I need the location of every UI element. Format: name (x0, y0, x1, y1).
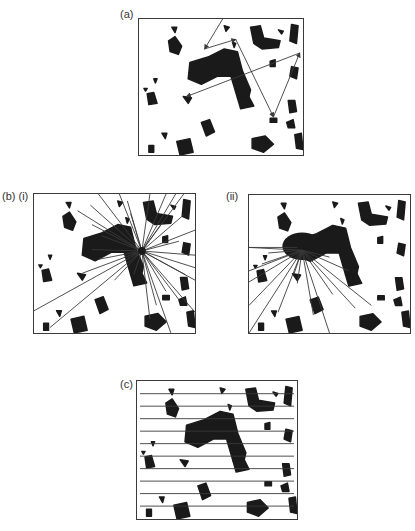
particle-cluster (182, 243, 190, 256)
panel-a-canvas (139, 19, 303, 155)
particle-cluster (272, 311, 277, 317)
particle-cluster (378, 296, 384, 300)
particle-cluster (283, 464, 291, 476)
particle-cluster (201, 120, 214, 136)
particle-cluster (180, 277, 188, 290)
particle-cluster (290, 67, 298, 79)
particle-cluster (147, 92, 157, 104)
particle-cluster (77, 273, 85, 280)
panel-b-ii-radial-cluster (248, 194, 411, 334)
particle-cluster (358, 202, 387, 225)
particle-cluster (333, 202, 338, 208)
particle-cluster (224, 26, 229, 31)
particle-cluster (154, 79, 157, 83)
particle-cluster (118, 201, 123, 207)
particle-cluster (287, 120, 295, 128)
panel-b-i-label: (b) (i) (2, 190, 28, 202)
particle-cluster (281, 203, 286, 209)
particle-cluster (233, 460, 249, 472)
particle-cluster (265, 422, 270, 429)
particle-cluster (172, 27, 177, 32)
particle-cluster (288, 101, 296, 113)
particle-cluster (394, 297, 402, 305)
particle-cluster (180, 460, 188, 467)
particle-cluster (346, 274, 362, 286)
particle-cluster (198, 483, 211, 500)
particle-cluster (284, 387, 292, 406)
origin-point (138, 247, 146, 255)
particle-cluster (145, 456, 155, 468)
particle-cluster (292, 274, 300, 281)
particle-cluster (402, 311, 410, 328)
panel-b-ii-canvas (249, 195, 410, 333)
panel-a-label: (a) (120, 8, 133, 20)
particle-cluster (162, 133, 167, 138)
particle-cluster (246, 388, 275, 411)
particle-cluster (228, 404, 231, 410)
particle-cluster (278, 213, 291, 231)
panel-b-i-canvas (34, 194, 195, 333)
particle-cluster (378, 236, 383, 243)
particle-cluster (182, 200, 190, 220)
particle-cluster (177, 139, 193, 155)
particle-cluster (232, 42, 235, 47)
particle-cluster (66, 202, 71, 208)
particle-cluster (395, 278, 403, 290)
radial-line (142, 251, 179, 300)
particle-cluster (220, 388, 225, 394)
particle-cluster (142, 451, 145, 454)
particle-cluster (281, 483, 289, 491)
radial-line (249, 250, 302, 305)
particle-cluster (44, 323, 49, 330)
particle-cluster (163, 295, 169, 299)
particle-cluster (126, 218, 129, 224)
panel-c-line-transects (136, 380, 298, 520)
particle-cluster (95, 297, 108, 314)
particle-cluster (286, 316, 302, 333)
particle-cluster (187, 311, 195, 328)
particle-cluster (270, 118, 277, 122)
panel-c-label: (c) (120, 378, 133, 390)
particle-cluster (174, 502, 190, 519)
particle-cluster (237, 97, 253, 109)
particle-cluster (159, 497, 164, 503)
particle-cluster (264, 256, 267, 260)
particle-cluster (247, 500, 268, 517)
particle-cluster (252, 136, 273, 152)
particle-cluster (42, 269, 52, 282)
particle-cluster (289, 497, 297, 514)
particle-cluster (149, 145, 154, 152)
radial-line (302, 250, 371, 305)
particle-cluster (39, 265, 42, 268)
radial-line (302, 250, 329, 333)
particle-cluster (265, 482, 271, 486)
particle-cluster (278, 30, 283, 34)
particle-cluster (145, 314, 166, 331)
particle-cluster (57, 311, 62, 317)
panel-a-random-walk (138, 18, 304, 156)
particle-cluster (166, 399, 179, 417)
particle-cluster (188, 49, 250, 103)
radial-line (50, 251, 142, 327)
particle-cluster (251, 26, 281, 49)
panel-b-ii-label: (ii) (226, 190, 238, 202)
particle-cluster (295, 133, 303, 149)
particle-cluster (397, 243, 405, 255)
particle-cluster (144, 88, 147, 91)
panel-c-canvas (137, 381, 297, 519)
particle-cluster (185, 411, 246, 466)
particle-cluster (397, 201, 405, 220)
particle-cluster (290, 24, 298, 43)
particle-cluster (169, 37, 182, 55)
particle-cluster (49, 255, 52, 259)
particle-cluster (71, 316, 87, 333)
particle-cluster (147, 509, 152, 516)
panel-b-i-radial-pore (33, 193, 196, 334)
particle-cluster (360, 314, 381, 331)
particle-cluster (183, 97, 191, 104)
particle-cluster (341, 218, 344, 224)
particle-cluster (386, 206, 391, 210)
particle-cluster (63, 212, 76, 230)
particle-cluster (259, 323, 264, 330)
